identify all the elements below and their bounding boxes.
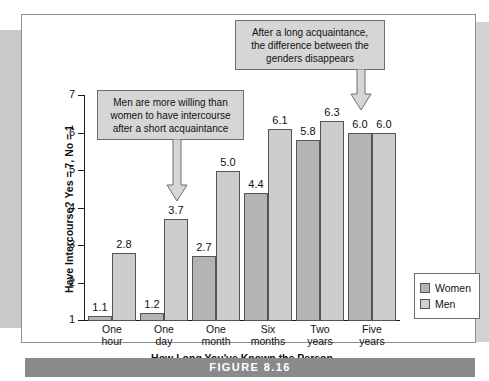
x-category-one-month: One month bbox=[190, 323, 242, 347]
y-axis-line bbox=[84, 95, 85, 321]
x-category-one-day-line2: day bbox=[138, 335, 190, 347]
bar-value-women-two-years: 5.8 bbox=[292, 125, 324, 137]
y-tick-label-3: 3 bbox=[61, 238, 75, 250]
x-category-two-years-line2: years bbox=[294, 335, 346, 347]
legend-swatch-men-icon bbox=[420, 299, 430, 309]
figure-page: Have Intercourse? Yes = 7, No = 1 7 6 5 … bbox=[0, 0, 489, 381]
y-tick-2: 2 bbox=[22, 283, 84, 284]
bar-men-six-months bbox=[268, 129, 292, 321]
annotation-short-acquaintance: Men are more willing than women to have … bbox=[97, 90, 244, 140]
figure-caption-label: FIGURE 8.16 bbox=[25, 358, 475, 377]
x-category-five-years-line2: years bbox=[346, 335, 398, 347]
annotation-short-acquaintance-line2: women to have intercourse bbox=[104, 109, 237, 122]
bar-value-men-one-day: 3.7 bbox=[160, 204, 192, 216]
x-category-one-hour-line2: hour bbox=[86, 335, 138, 347]
y-tick-7: 7 bbox=[22, 95, 84, 96]
bar-value-men-one-month: 5.0 bbox=[212, 156, 244, 168]
figure-panel: Have Intercourse? Yes = 7, No = 1 7 6 5 … bbox=[21, 14, 476, 343]
y-tick-label-4: 4 bbox=[61, 201, 75, 213]
bar-value-women-one-hour: 1.1 bbox=[84, 301, 116, 313]
bar-value-men-two-years: 6.3 bbox=[316, 106, 348, 118]
legend-item-men: Men bbox=[420, 296, 474, 312]
bar-women-one-day bbox=[140, 313, 164, 321]
x-category-five-years: Five years bbox=[346, 323, 398, 347]
annotation-long-acquaintance-line1: After a long acquaintance, bbox=[242, 26, 378, 39]
legend-item-women: Women bbox=[420, 280, 474, 296]
x-category-one-day: One day bbox=[138, 323, 190, 347]
y-tick-5: 5 bbox=[22, 170, 84, 171]
bar-value-men-five-years: 6.0 bbox=[368, 118, 400, 130]
legend-label-men: Men bbox=[435, 298, 455, 310]
legend-label-women: Women bbox=[435, 282, 471, 294]
bar-value-women-one-day: 1.2 bbox=[136, 298, 168, 310]
x-category-one-hour: One hour bbox=[86, 323, 138, 347]
bar-women-one-hour bbox=[88, 316, 112, 321]
bar-value-women-six-months: 4.4 bbox=[240, 178, 272, 190]
bar-value-women-one-month: 2.7 bbox=[188, 241, 220, 253]
y-tick-4: 4 bbox=[22, 208, 84, 209]
x-category-two-years-line1: Two bbox=[294, 323, 346, 335]
y-tick-3: 3 bbox=[22, 245, 84, 246]
y-tick-6: 6 bbox=[22, 133, 84, 134]
bar-men-two-years bbox=[320, 121, 344, 321]
x-category-six-months-line2: months bbox=[242, 335, 294, 347]
y-tick-label-5: 5 bbox=[61, 163, 75, 175]
bar-value-men-one-hour: 2.8 bbox=[108, 238, 140, 250]
bar-women-six-months bbox=[244, 193, 268, 321]
annotation-long-acquaintance: After a long acquaintance, the differenc… bbox=[235, 20, 385, 70]
bar-women-five-years bbox=[348, 133, 372, 321]
annotation-long-acquaintance-line3: genders disappears bbox=[242, 52, 378, 65]
y-tick-label-1: 1 bbox=[61, 313, 75, 325]
bar-men-five-years bbox=[372, 133, 396, 321]
x-category-six-months-line1: Six bbox=[242, 323, 294, 335]
y-tick-label-6: 6 bbox=[61, 126, 75, 138]
y-tick-label-2: 2 bbox=[61, 276, 75, 288]
figure-caption-band: FIGURE 8.16 bbox=[25, 358, 475, 377]
y-tick-label-7: 7 bbox=[61, 88, 75, 100]
annotation-short-acquaintance-line3: after a short acquaintance bbox=[104, 122, 237, 135]
x-category-one-month-line2: month bbox=[190, 335, 242, 347]
legend-swatch-women-icon bbox=[420, 283, 430, 293]
annotation-short-acquaintance-arrow-icon bbox=[166, 139, 188, 205]
bar-women-one-month bbox=[192, 256, 216, 321]
x-category-one-month-line1: One bbox=[190, 323, 242, 335]
y-tick-1: 1 bbox=[22, 320, 84, 321]
chart-legend: Women Men bbox=[414, 273, 480, 319]
x-category-six-months: Six months bbox=[242, 323, 294, 347]
annotation-long-acquaintance-arrow-icon bbox=[350, 69, 372, 113]
x-category-five-years-line1: Five bbox=[346, 323, 398, 335]
annotation-long-acquaintance-line2: the difference between the bbox=[242, 39, 378, 52]
x-category-one-day-line1: One bbox=[138, 323, 190, 335]
x-category-two-years: Two years bbox=[294, 323, 346, 347]
bar-women-two-years bbox=[296, 140, 320, 321]
x-category-one-hour-line1: One bbox=[86, 323, 138, 335]
annotation-short-acquaintance-line1: Men are more willing than bbox=[104, 96, 237, 109]
